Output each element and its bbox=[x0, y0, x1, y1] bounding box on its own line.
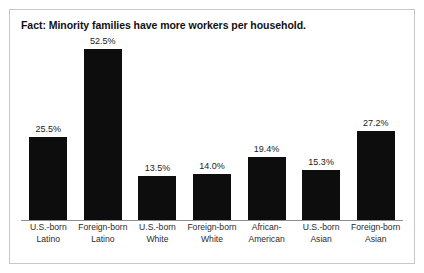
bar[interactable] bbox=[357, 131, 395, 220]
category-label-line: U.S.-born bbox=[130, 222, 185, 234]
bar-value-label: 52.5% bbox=[90, 36, 116, 46]
bar-value-label: 27.2% bbox=[363, 118, 389, 128]
category-label-line: U.S.-born bbox=[294, 222, 349, 234]
category-labels-row: U.S.-bornLatinoForeign-bornLatinoU.S.-bo… bbox=[21, 222, 403, 256]
bar-value-label: 25.5% bbox=[36, 124, 62, 134]
bar-value-label: 19.4% bbox=[254, 144, 280, 154]
clipped-caption-text bbox=[62, 0, 382, 6]
category-label: Foreign-bornAsian bbox=[348, 222, 403, 245]
plot-area: 25.5%52.5%13.5%14.0%19.4%15.3%27.2% bbox=[21, 34, 403, 220]
category-label: African-American bbox=[239, 222, 294, 245]
bar-slot: 14.0% bbox=[185, 34, 240, 220]
category-label: U.S.-bornLatino bbox=[21, 222, 76, 245]
bar-slot: 13.5% bbox=[130, 34, 185, 220]
category-label-line: U.S.-born bbox=[21, 222, 76, 234]
category-label-line: Foreign-born bbox=[76, 222, 131, 234]
category-label: Foreign-bornWhite bbox=[185, 222, 240, 245]
chart-title: Fact: Minority families have more worker… bbox=[21, 19, 306, 31]
category-label-line: Latino bbox=[21, 234, 76, 246]
bar[interactable] bbox=[84, 49, 122, 220]
category-label-line: White bbox=[130, 234, 185, 246]
bar-slot: 19.4% bbox=[239, 34, 294, 220]
bar-value-label: 15.3% bbox=[308, 157, 334, 167]
category-label: Foreign-bornLatino bbox=[76, 222, 131, 245]
bar-slot: 52.5% bbox=[76, 34, 131, 220]
category-label-line: Asian bbox=[294, 234, 349, 246]
category-label: U.S.-bornWhite bbox=[130, 222, 185, 245]
bar[interactable] bbox=[248, 157, 286, 220]
category-label-line: Foreign-born bbox=[348, 222, 403, 234]
bar[interactable] bbox=[193, 174, 231, 220]
category-label: U.S.-bornAsian bbox=[294, 222, 349, 245]
category-label-line: Latino bbox=[76, 234, 131, 246]
bar-slot: 27.2% bbox=[348, 34, 403, 220]
bar-value-label: 14.0% bbox=[199, 161, 225, 171]
bar-value-label: 13.5% bbox=[145, 163, 171, 173]
x-axis-line bbox=[21, 220, 403, 221]
bar-slot: 25.5% bbox=[21, 34, 76, 220]
category-label-line: Foreign-born bbox=[185, 222, 240, 234]
category-label-line: Asian bbox=[348, 234, 403, 246]
bar[interactable] bbox=[138, 176, 176, 220]
category-label-line: African- bbox=[239, 222, 294, 234]
bar-slot: 15.3% bbox=[294, 34, 349, 220]
bar[interactable] bbox=[29, 137, 67, 220]
chart-figure: Fact: Minority families have more worker… bbox=[0, 0, 424, 273]
bar[interactable] bbox=[302, 170, 340, 220]
category-label-line: White bbox=[185, 234, 240, 246]
category-label-line: American bbox=[239, 234, 294, 246]
